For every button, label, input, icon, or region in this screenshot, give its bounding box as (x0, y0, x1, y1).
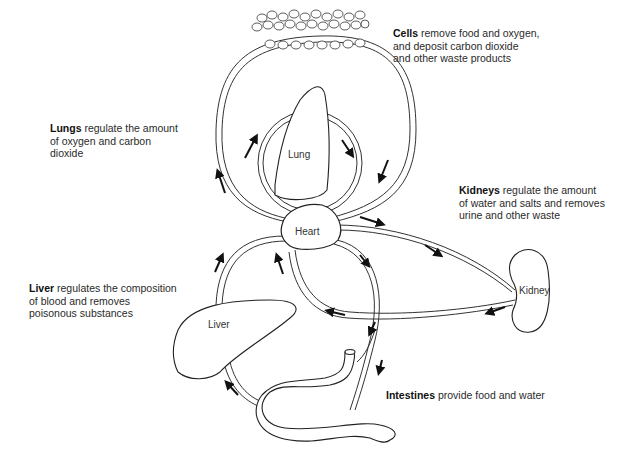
arrow-icon (277, 256, 283, 274)
lung-label: Lung (288, 149, 310, 160)
caption-line: of water and salts and removes (459, 197, 605, 209)
caption-line: and other waste products (393, 52, 511, 64)
caption-line: and deposit carbon dioxide (393, 40, 519, 52)
heart-label: Heart (295, 226, 320, 237)
intestines-caption: Intestines provide food and water (386, 389, 545, 402)
arrow-icon (379, 360, 382, 372)
cells-cluster (252, 10, 369, 49)
cells-caption: Cells remove food and oxygen, and deposi… (393, 27, 540, 65)
arrow-icon (342, 140, 352, 155)
cells-term: Cells (393, 27, 418, 39)
kidney-label: Kidney (519, 285, 550, 296)
liver-caption: Liver regulates the composition of blood… (29, 282, 177, 320)
lung-shape (275, 87, 329, 200)
lungs-term: Lungs (50, 122, 82, 134)
caption-line: of oxygen and carbon (50, 135, 151, 147)
caption-line: regulates the composition (57, 282, 177, 294)
arrow-icon (425, 245, 440, 255)
kidneys-term: Kidneys (459, 184, 500, 196)
arrow-icon (245, 137, 256, 158)
kidneys-caption: Kidneys regulate the amount of water and… (459, 184, 605, 222)
liver-label: Liver (208, 319, 230, 330)
arrow-icon (360, 217, 382, 224)
arrow-icon (218, 172, 225, 193)
arrow-icon (380, 160, 388, 180)
caption-line: poisonous substances (29, 307, 133, 319)
lungs-caption: Lungs regulate the amount of oxygen and … (50, 122, 178, 160)
arrow-icon (215, 256, 222, 272)
caption-line: regulate the amount (84, 122, 177, 134)
caption-line: of blood and removes (29, 295, 130, 307)
caption-line: dioxide (50, 147, 83, 159)
liver-term: Liver (29, 282, 54, 294)
liver-shape (174, 300, 296, 379)
caption-line: remove food and oxygen, (421, 27, 540, 39)
caption-line: provide food and water (438, 389, 545, 401)
intestines-term: Intestines (386, 389, 435, 401)
caption-line: urine and other waste (459, 209, 560, 221)
caption-line: regulate the amount (503, 184, 596, 196)
intestine-shape (256, 350, 395, 443)
